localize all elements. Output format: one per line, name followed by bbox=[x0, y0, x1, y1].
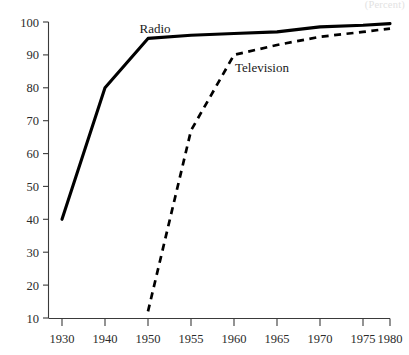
y-axis: 100 90 80 70 60 50 40 30 20 10 bbox=[20, 16, 48, 326]
x-tick-label: 1960 bbox=[222, 332, 247, 346]
line-chart: 100 90 80 70 60 50 40 30 20 10 bbox=[0, 0, 409, 355]
x-tick-label: 1970 bbox=[308, 332, 333, 346]
y-tick-label: 90 bbox=[27, 48, 40, 62]
x-tick-label: 1930 bbox=[50, 332, 75, 346]
x-tick-label: 1950 bbox=[136, 332, 161, 346]
x-tick-labels: 1930 1940 1950 1955 1960 1965 1970 1975 … bbox=[50, 332, 403, 346]
x-axis: 1930 1940 1950 1955 1960 1965 1970 1975 … bbox=[49, 319, 403, 347]
y-tick-label: 20 bbox=[27, 279, 40, 293]
series-label-radio: Radio bbox=[139, 21, 170, 36]
y-tick-label: 40 bbox=[27, 213, 40, 227]
y-tick-label: 60 bbox=[27, 147, 40, 161]
y-tick-label: 10 bbox=[27, 312, 40, 326]
y-tick-label: 30 bbox=[27, 246, 40, 260]
y-tick-marks bbox=[43, 22, 49, 318]
y-tick-label: 70 bbox=[27, 114, 40, 128]
y-tick-labels: 100 90 80 70 60 50 40 30 20 10 bbox=[20, 16, 39, 326]
series-line-radio bbox=[62, 24, 390, 220]
x-tick-label: 1975 bbox=[351, 332, 376, 346]
x-tick-label: 1940 bbox=[93, 332, 118, 346]
x-tick-marks bbox=[62, 319, 390, 327]
x-tick-label: 1965 bbox=[265, 332, 290, 346]
chart-container: (Percent) 100 90 80 70 60 bbox=[0, 0, 409, 355]
data-series-group bbox=[62, 24, 390, 312]
y-tick-label: 80 bbox=[27, 81, 40, 95]
x-tick-label: 1980 bbox=[378, 332, 403, 346]
y-tick-label: 50 bbox=[27, 180, 40, 194]
series-label-television: Television bbox=[235, 60, 289, 75]
x-tick-label: 1955 bbox=[179, 332, 204, 346]
y-tick-label: 100 bbox=[20, 16, 39, 30]
